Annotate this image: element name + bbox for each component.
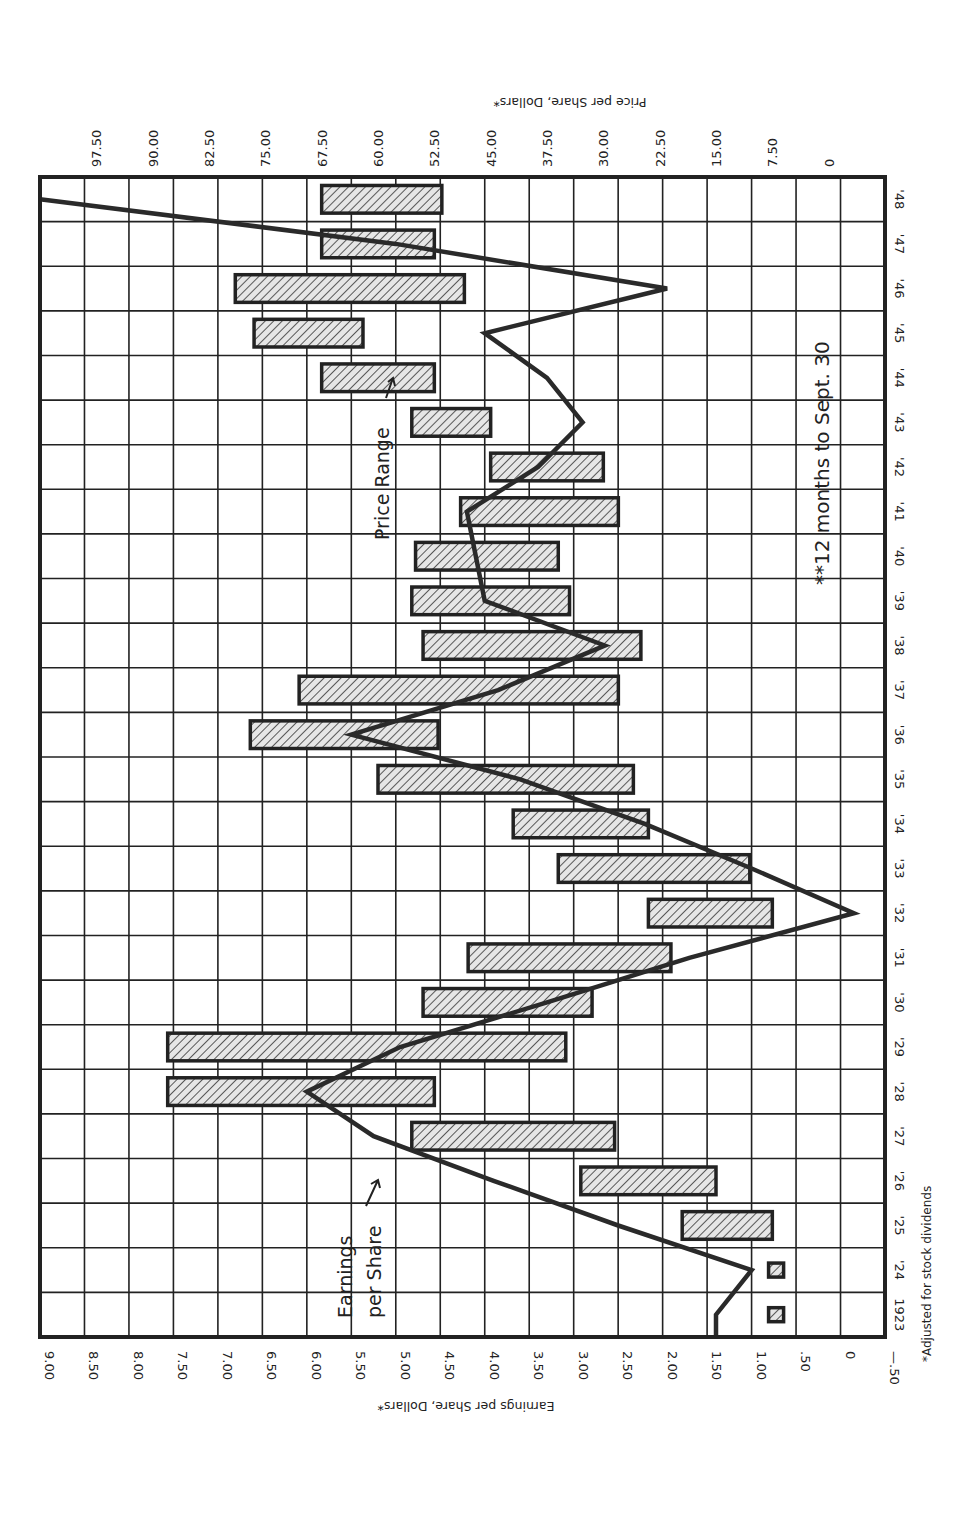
price-tick-label: 97.50: [89, 130, 104, 167]
price-range-bar: [322, 364, 435, 392]
earnings-tick-label: 6.00: [309, 1351, 324, 1380]
year-tick-label: '38: [892, 635, 907, 655]
price-range-bar: [254, 319, 363, 347]
year-tick-label: '27: [892, 1126, 907, 1146]
year-tick-label: '37: [892, 680, 907, 700]
earnings-annotation-line2: per Share: [363, 1226, 385, 1318]
footnote: *Adjusted for stock dividends: [920, 1186, 934, 1362]
year-tick-label: '47: [892, 234, 907, 254]
year-tick-label: '46: [892, 278, 907, 298]
earnings-tick-label: 7.50: [175, 1351, 190, 1380]
price-tick-label: 67.50: [315, 130, 330, 167]
earnings-tick-label: 8.50: [86, 1351, 101, 1380]
price-range-bar: [235, 275, 464, 303]
earnings-tick-label: 1.00: [754, 1351, 769, 1380]
earnings-annotation: Earnings per Share: [334, 1180, 385, 1318]
earnings-tick-label: 2.50: [620, 1351, 635, 1380]
price-tick-label: 0: [822, 159, 837, 167]
earnings-tick-label: 1.50: [709, 1351, 724, 1380]
price-range-bar: [412, 1122, 615, 1150]
price-range-bar: [378, 765, 633, 793]
year-tick-label: '39: [892, 591, 907, 611]
year-tick-label: '30: [892, 992, 907, 1012]
arrow-icon: [366, 1180, 380, 1206]
price-tick-label: 90.00: [146, 130, 161, 167]
earnings-tick-label: 9.00: [42, 1351, 57, 1380]
price-tick-label: 30.00: [596, 130, 611, 167]
price-range-bar: [769, 1308, 784, 1322]
price-range-bar: [168, 1078, 435, 1106]
price-tick-label: 60.00: [371, 130, 386, 167]
earnings-tick-label: 7.00: [220, 1351, 235, 1380]
earnings-tick-label: 3.00: [576, 1351, 591, 1380]
price-axis-title: Price per Share, Dollars*: [493, 95, 646, 110]
price-tick-label: 75.00: [258, 130, 273, 167]
year-tick-label: '42: [892, 457, 907, 477]
price-tick-label: 45.00: [484, 130, 499, 167]
year-tick-label: '24: [892, 1260, 907, 1280]
year-tick-label: '44: [892, 368, 907, 388]
year-tick-label: '29: [892, 1037, 907, 1057]
year-axis-ticks: 1923'24'25'26'27'28'29'30'31'32'33'34'35…: [892, 189, 907, 1331]
chart-grid: [40, 177, 885, 1337]
earnings-tick-label: 5.00: [398, 1351, 413, 1380]
months-note: **12 months to Sept. 30: [810, 341, 834, 585]
price-range-bar: [648, 899, 772, 927]
price-range-bar: [168, 1033, 566, 1061]
earnings-tick-label: 4.00: [487, 1351, 502, 1380]
year-tick-label: '34: [892, 814, 907, 834]
earnings-tick-label: —.50: [887, 1351, 902, 1385]
price-tick-label: 22.50: [653, 130, 668, 167]
year-tick-label: '43: [892, 412, 907, 432]
year-tick-label: '36: [892, 725, 907, 745]
year-tick-label: '28: [892, 1082, 907, 1102]
price-range-label: Price Range: [371, 427, 393, 540]
year-tick-label: '40: [892, 546, 907, 566]
year-tick-label: '31: [892, 948, 907, 968]
year-tick-label: '26: [892, 1171, 907, 1191]
price-tick-label: 52.50: [427, 130, 442, 167]
earnings-tick-label: 4.50: [442, 1351, 457, 1380]
price-tick-label: 37.50: [540, 130, 555, 167]
price-tick-label: 15.00: [709, 130, 724, 167]
year-tick-label: '48: [892, 189, 907, 209]
price-range-bar: [581, 1167, 716, 1195]
earnings-tick-label: 6.50: [264, 1351, 279, 1380]
earnings-tick-label: 0: [843, 1351, 858, 1359]
price-tick-label: 7.50: [765, 138, 780, 167]
earnings-tick-label: 8.00: [131, 1351, 146, 1380]
price-range-bar: [513, 810, 648, 838]
price-range-bar: [558, 855, 750, 883]
year-tick-label: '33: [892, 858, 907, 878]
price-axis-ticks: 97.5090.0082.5075.0067.5060.0052.5045.00…: [89, 130, 836, 167]
year-tick-label: '45: [892, 323, 907, 343]
earnings-tick-label: 3.50: [531, 1351, 546, 1380]
year-tick-label: '25: [892, 1215, 907, 1235]
price-range-bar: [769, 1263, 784, 1277]
earnings-tick-label: .50: [798, 1351, 813, 1372]
earnings-tick-label: 2.00: [665, 1351, 680, 1380]
earnings-axis-title: Earnings per Share, Dollars*: [378, 1399, 555, 1414]
year-tick-label: '32: [892, 903, 907, 923]
price-range-bar: [468, 944, 671, 972]
price-range-bar: [412, 409, 491, 437]
price-tick-label: 82.50: [202, 130, 217, 167]
price-range-bar: [322, 185, 442, 213]
year-tick-label: '41: [892, 502, 907, 522]
price-range-bar: [416, 542, 559, 570]
earnings-axis-ticks: 9.008.508.007.507.006.506.005.505.004.50…: [42, 1351, 902, 1385]
earnings-tick-label: 5.50: [353, 1351, 368, 1380]
year-tick-label: 1923: [892, 1298, 907, 1331]
year-tick-label: '35: [892, 769, 907, 789]
price-range-annotation: Price Range: [371, 378, 395, 540]
price-earnings-chart: 9.008.508.007.507.006.506.005.505.004.50…: [0, 0, 957, 1515]
price-range-bar: [682, 1212, 772, 1240]
earnings-annotation-line1: Earnings: [334, 1236, 356, 1318]
